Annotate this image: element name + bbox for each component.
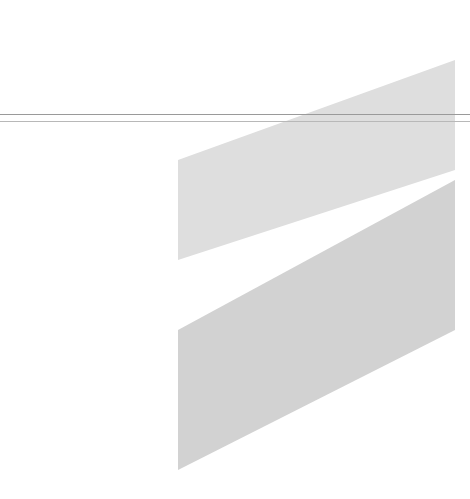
divider-line-top [0, 114, 470, 115]
divider-line-bottom [0, 121, 470, 122]
dna-illustration [0, 0, 470, 499]
dna-figure [0, 0, 470, 499]
